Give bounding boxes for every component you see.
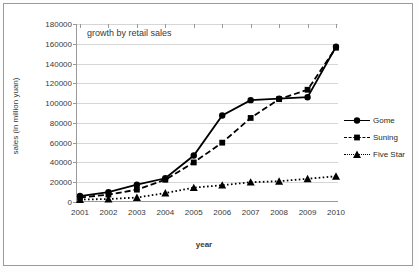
data-point: [332, 172, 340, 179]
y-tick-label: 180000: [45, 20, 72, 29]
legend-label: Five Star: [373, 150, 405, 159]
x-tick-label: 2001: [71, 208, 89, 217]
y-tick-label: 140000: [45, 59, 72, 68]
legend-item[interactable]: Gome: [344, 112, 405, 129]
data-point: [219, 140, 225, 146]
y-axis-label-text: sales (in million yuan): [11, 78, 20, 155]
data-point: [134, 187, 140, 193]
series-line: [80, 176, 336, 199]
y-tick-label: 120000: [45, 79, 72, 88]
data-point: [305, 87, 311, 93]
data-point: [133, 194, 141, 201]
y-axis-label: sales (in million yuan): [4, 46, 26, 186]
y-tick-label: 100000: [45, 99, 72, 108]
data-point: [248, 115, 254, 121]
y-tick-label: 0: [68, 198, 72, 207]
x-tick-label: 2004: [156, 208, 174, 217]
legend-key-triangle-icon: [344, 149, 370, 160]
screenshot-root: sales (in million yuan) growth by retail…: [0, 0, 418, 272]
chart-frame: sales (in million yuan) growth by retail…: [3, 3, 413, 266]
legend-item[interactable]: Five Star: [344, 146, 405, 163]
series-line: [80, 48, 336, 198]
series-layer: [77, 24, 339, 202]
y-tick-label: 20000: [50, 178, 72, 187]
legend-label: Suning: [373, 133, 398, 142]
data-point: [333, 45, 339, 51]
legend-label: Gome: [373, 116, 395, 125]
x-tick-label: 2006: [213, 208, 231, 217]
y-tick-label: 160000: [45, 39, 72, 48]
x-axis-label: year: [196, 240, 212, 249]
x-tick-label: 2005: [185, 208, 203, 217]
x-tick-label: 2003: [128, 208, 146, 217]
plot-area: growth by retail sales 02000040000600008…: [76, 24, 338, 202]
legend-item[interactable]: Suning: [344, 129, 405, 146]
data-point: [219, 112, 225, 118]
legend: GomeSuningFive Star: [344, 112, 405, 163]
x-tick-label: 2009: [299, 208, 317, 217]
y-tick-label: 40000: [50, 158, 72, 167]
y-tick-label: 80000: [50, 118, 72, 127]
data-point: [191, 152, 197, 158]
x-tick-label: 2010: [327, 208, 345, 217]
data-point: [304, 94, 310, 100]
data-point: [191, 160, 197, 166]
data-point: [247, 97, 253, 103]
data-point: [304, 175, 312, 182]
x-tick-label: 2002: [100, 208, 118, 217]
data-point: [276, 96, 282, 102]
data-point: [162, 177, 168, 183]
x-tick-label: 2007: [242, 208, 260, 217]
x-tick-label: 2008: [270, 208, 288, 217]
y-tick-label: 60000: [50, 138, 72, 147]
series-line: [80, 47, 336, 196]
legend-key-square-icon: [344, 132, 370, 143]
legend-key-circle-icon: [344, 115, 370, 126]
